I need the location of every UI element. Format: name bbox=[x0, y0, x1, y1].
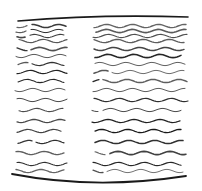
left-column-wavy-lines bbox=[15, 24, 67, 172]
wavy-lines-illustration bbox=[0, 0, 202, 191]
bottom-curve-stroke bbox=[12, 174, 186, 183]
top-curve-stroke bbox=[18, 16, 188, 21]
right-column-wavy-lines bbox=[92, 24, 188, 172]
